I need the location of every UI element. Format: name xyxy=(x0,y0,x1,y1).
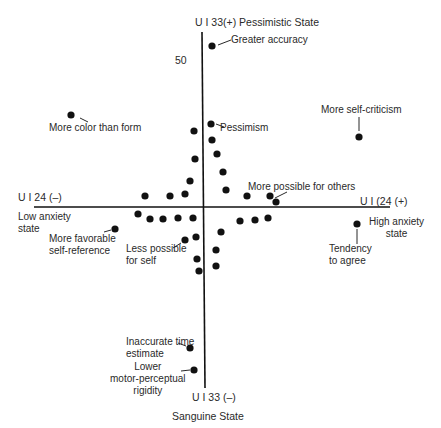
data-point xyxy=(353,220,360,227)
data-point xyxy=(219,168,226,175)
label-more-self-criticism: More self-criticism xyxy=(321,104,402,116)
data-point xyxy=(272,198,279,205)
y-axis xyxy=(202,32,205,388)
data-point xyxy=(207,120,214,127)
data-point xyxy=(181,190,188,197)
label-low-anxiety: Low anxiety state xyxy=(18,211,71,235)
data-point xyxy=(190,366,197,373)
data-points xyxy=(67,42,362,373)
label-more-favorable: More favorable self-reference xyxy=(49,233,116,257)
data-point xyxy=(213,150,220,157)
data-point xyxy=(243,192,250,199)
scale-tick-50: 50 xyxy=(175,54,187,66)
left-axis-label: U I 24 (–) xyxy=(18,191,62,203)
top-axis-label: U I 33(+) Pessimistic State xyxy=(195,16,319,28)
label-greater-accuracy: Greater accuracy xyxy=(231,34,308,46)
data-point xyxy=(186,177,193,184)
data-point xyxy=(208,136,215,143)
sanguine-state-label: Sanguine State xyxy=(172,410,244,422)
data-point xyxy=(251,216,258,223)
data-point xyxy=(195,267,202,274)
data-point xyxy=(191,155,198,162)
label-less-possible-for-self: Less possible for self xyxy=(126,243,187,267)
data-point xyxy=(166,192,173,199)
data-point xyxy=(134,210,141,217)
label-more-color-than-form: More color than form xyxy=(49,122,141,134)
data-point xyxy=(266,192,273,199)
data-point xyxy=(264,214,271,221)
label-more-possible-for-others: More possible for others xyxy=(248,181,355,193)
right-axis-label: U I (24 (+) xyxy=(360,195,408,207)
data-point xyxy=(67,111,74,118)
label-tendency-to-agree: Tendency to agree xyxy=(329,243,372,267)
label-lower-motor: Lower motor-perceptual rigidity xyxy=(110,361,186,397)
data-point xyxy=(174,214,181,221)
label-inaccurate-time: Inaccurate time estimate xyxy=(126,336,194,360)
data-point xyxy=(159,215,166,222)
data-point xyxy=(217,228,224,235)
data-point xyxy=(146,215,153,222)
data-point xyxy=(355,133,362,140)
data-point xyxy=(192,233,199,240)
data-point xyxy=(212,262,219,269)
annotation-arrows xyxy=(80,40,359,371)
label-pessimism: Pessimism xyxy=(220,122,268,134)
data-point xyxy=(212,246,219,253)
data-point xyxy=(193,255,200,262)
data-point xyxy=(189,214,196,221)
data-point xyxy=(236,217,243,224)
data-point xyxy=(141,192,148,199)
data-point xyxy=(111,225,118,232)
data-point xyxy=(222,186,229,193)
bottom-axis-label: U I 33 (–) xyxy=(192,391,236,403)
data-point xyxy=(208,42,215,49)
data-point xyxy=(190,127,197,134)
label-high-anxiety: High anxiety state xyxy=(369,216,424,240)
